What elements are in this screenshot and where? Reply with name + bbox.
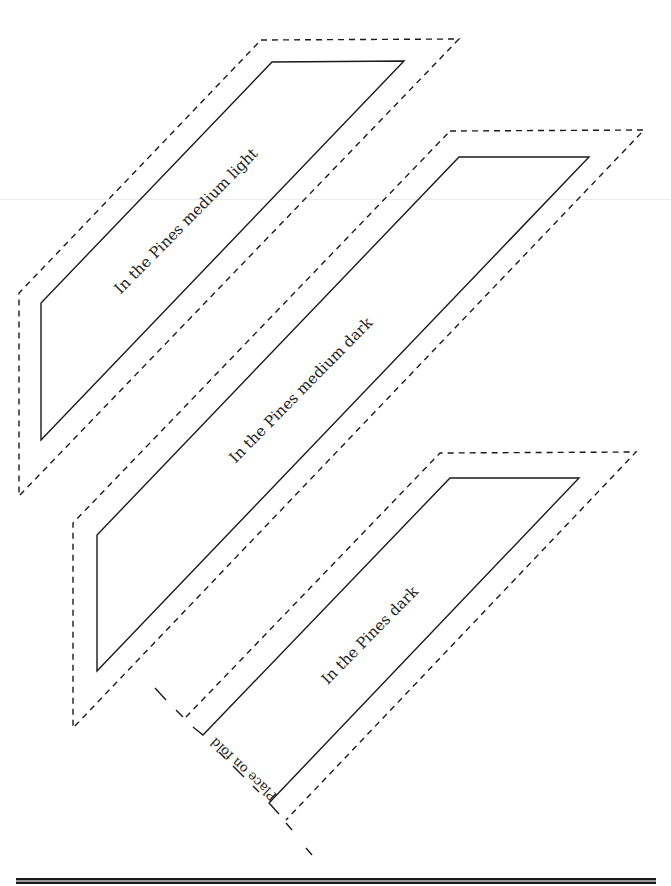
fold-dash (176, 710, 183, 717)
cut-line-outline (193, 478, 579, 814)
fold-dash (155, 688, 166, 700)
pattern-piece-dark (155, 452, 636, 855)
fold-dash (306, 848, 312, 855)
pattern-piece-medium-light (19, 39, 459, 496)
bottom-rule (16, 878, 656, 884)
seam-allowance-outline (19, 39, 459, 496)
pattern-template-drawing (0, 0, 671, 886)
cut-line-outline (41, 61, 404, 440)
fold-line (155, 688, 312, 855)
fold-dash (286, 823, 292, 830)
